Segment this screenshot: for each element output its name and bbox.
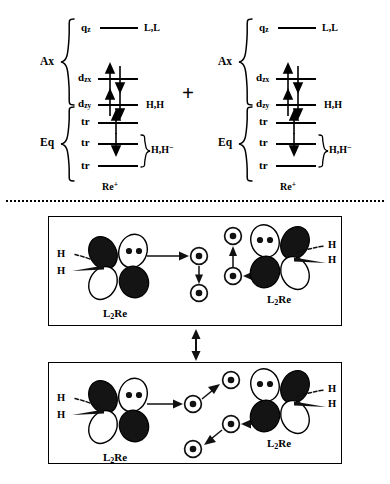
orbital-label-dzx-right: dzx <box>256 72 269 84</box>
figure-canvas: Ax Eq qz L,L dzx <box>0 0 390 484</box>
brace-eq-right <box>238 106 254 182</box>
metal-center-label-left: Re+ <box>102 180 118 192</box>
h-label-right-top-1: H <box>328 239 336 250</box>
fragment-right-top: H H L2Re <box>231 221 343 321</box>
occupancy-label-qz-left: L,L <box>144 22 160 33</box>
group-label-eq-left: Eq <box>40 136 54 148</box>
atom-circle-bl-top <box>191 285 208 302</box>
arrow-left-to-center-bottom <box>147 400 183 409</box>
h-label-left-top-1: H <box>57 248 65 259</box>
level-line-qz-left <box>98 22 140 34</box>
orbital-label-tr2-left: tr <box>81 137 90 148</box>
occupancy-label-qz-right: L,L <box>322 22 338 33</box>
resonance-panel-bottom: H H L2Re <box>48 362 342 464</box>
atom-circle-bl-bottom <box>185 441 202 458</box>
h-label-right-bottom-2: H <box>328 398 336 409</box>
fragment-label-right-bottom: L2Re <box>267 437 291 451</box>
orbital-label-dzx-left: dzx <box>78 72 91 84</box>
fragment-label-left-top: L2Re <box>103 307 127 321</box>
group-label-ax-left: Ax <box>40 55 54 67</box>
h-label-right-bottom-1: H <box>328 383 336 394</box>
plus-sign: + <box>182 83 194 104</box>
group-label-eq-right: Eq <box>218 136 232 148</box>
fragment-label-left-bottom: L2Re <box>103 451 127 465</box>
h-label-left-top-2: H <box>57 265 65 276</box>
occupancy-label-hhminus-right: H,H− <box>329 143 352 155</box>
h-label-right-top-2: H <box>328 254 336 265</box>
brace-hh-left <box>140 134 151 168</box>
orbital-label-tr1-right: tr <box>259 116 268 127</box>
occupancy-label-hhminus-left: H,H− <box>151 143 174 155</box>
h-label-left-bottom-2: H <box>57 409 65 420</box>
occupancy-label-dzy-right: H,H <box>324 99 342 110</box>
group-label-ax-right: Ax <box>218 55 232 67</box>
orbital-label-qz-left: qz <box>81 22 90 34</box>
atom-circle-tl-top <box>191 248 208 265</box>
arrow-down-top <box>195 266 203 284</box>
orbital-lobes-right-top <box>231 221 343 299</box>
brace-hh-right <box>318 134 329 168</box>
level-dzx-right <box>274 62 320 92</box>
arrow-left-to-center-top <box>147 252 189 261</box>
orbital-label-dzy-left: dzy <box>78 98 91 110</box>
mo-diagram-left: Ax Eq qz L,L dzx <box>40 10 185 196</box>
orbital-label-tr2-right: tr <box>259 137 268 148</box>
orbital-label-tr3-left: tr <box>81 160 90 171</box>
brace-ax-right <box>238 18 254 106</box>
metal-center-label-right: Re+ <box>280 180 296 192</box>
occupancy-label-dzy-left: H,H <box>146 99 164 110</box>
level-line-tr3-right <box>274 160 320 172</box>
mo-diagram-right: Ax Eq qz L,L dzx <box>218 10 363 196</box>
orbital-label-tr1-left: tr <box>81 116 90 127</box>
brace-eq-left <box>60 106 76 182</box>
level-tr2-right <box>274 131 320 157</box>
h-label-left-bottom-1: H <box>57 392 65 403</box>
level-line-tr3-left <box>96 160 142 172</box>
arrow-down-left-bottom <box>204 430 222 445</box>
section-divider <box>6 200 384 202</box>
level-dzx-left <box>96 62 142 92</box>
mo-diagram-section: Ax Eq qz L,L dzx <box>0 0 390 196</box>
resonance-panel-top: H H L2Re <box>48 216 342 326</box>
fragment-right-bottom: H H L2Re <box>231 365 343 465</box>
orbital-label-tr3-right: tr <box>259 160 268 171</box>
fragment-label-right-top: L2Re <box>267 293 291 307</box>
orbital-label-dzy-right: dzy <box>256 98 269 110</box>
arrow-up-right-bottom <box>202 384 220 399</box>
level-line-qz-right <box>276 22 318 34</box>
level-tr2-left <box>96 131 142 157</box>
resonance-arrow <box>188 329 204 361</box>
atom-circle-l-bottom <box>185 396 202 413</box>
orbital-lobes-right-bottom <box>231 365 343 443</box>
brace-ax-left <box>60 18 76 106</box>
orbital-label-qz-right: qz <box>259 22 268 34</box>
